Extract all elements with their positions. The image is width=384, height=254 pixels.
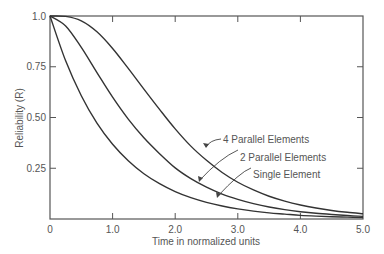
x-tick-label: 0 — [47, 224, 53, 235]
arrow-4-parallel — [206, 139, 221, 147]
y-tick-label: 0.75 — [27, 61, 47, 72]
annotation-arrows — [199, 139, 251, 197]
axis-ticks — [50, 16, 363, 219]
x-tick-label: 1.0 — [106, 224, 120, 235]
plot-frame — [50, 16, 363, 219]
y-tick-label: 0.25 — [27, 163, 47, 174]
annotation-4-parallel: 4 Parallel Elements — [223, 134, 309, 145]
x-tick-label: 2.0 — [168, 224, 182, 235]
curve-4-parallel-elements — [50, 16, 363, 214]
y-tick-label: 1.0 — [32, 11, 46, 22]
annotation-single: Single Element — [253, 169, 320, 180]
arrow-2-parallel — [199, 150, 238, 181]
x-axis-label: Time in normalized units — [152, 236, 260, 247]
x-tick-labels: 01.02.03.04.05.0 — [47, 224, 370, 235]
curve-2-parallel-elements — [50, 16, 363, 216]
y-tick-label: 0.50 — [27, 112, 47, 123]
y-axis-label: Reliability (R) — [14, 88, 25, 147]
x-tick-label: 4.0 — [293, 224, 307, 235]
x-tick-label: 3.0 — [231, 224, 245, 235]
annotation-2-parallel: 2 Parallel Elements — [240, 152, 326, 163]
y-tick-labels: 0.250.500.751.0 — [27, 11, 47, 174]
reliability-chart: 01.02.03.04.05.0 0.250.500.751.0 4 Paral… — [0, 0, 384, 254]
x-tick-label: 5.0 — [356, 224, 370, 235]
curves — [50, 16, 363, 218]
